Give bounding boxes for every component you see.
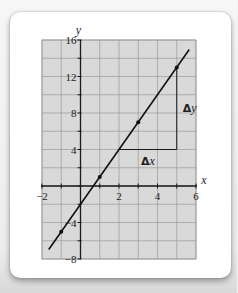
y-tick-label: 4 [71,144,77,156]
y-tick-label: −8 [65,253,77,265]
y-tick-label: 12 [66,71,77,83]
data-point [59,230,63,234]
x-tick-label: 4 [155,190,161,202]
data-point [98,175,102,179]
slope-run-label: Δx [141,154,156,168]
y-axis-label: y [75,23,82,37]
y-tick-label: −4 [65,217,77,229]
x-tick-label: −2 [36,190,48,202]
x-tick-label: 6 [193,190,199,202]
data-point [136,120,140,124]
slope-rise-label: Δy [183,101,198,115]
x-axis-label: x [200,173,207,187]
line-chart: −2246161284−4−8yxΔxΔy [0,0,237,293]
y-tick-label: 8 [71,107,77,119]
x-tick-label: 2 [116,190,122,202]
data-point [175,65,179,69]
